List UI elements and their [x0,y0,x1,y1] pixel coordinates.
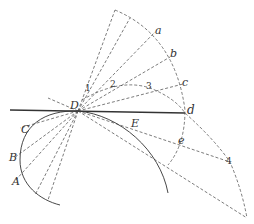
label-C: C [21,124,29,135]
dashed-arc-inner [82,85,247,218]
number-4: 4 [226,157,232,166]
number-1: 1 [85,84,91,93]
label-c: c [182,77,188,88]
geometry-diagram: D E C B A a b c d e 1 2 3 4 [0,0,254,224]
label-E: E [131,118,139,129]
label-A: A [12,176,20,187]
label-d: d [187,104,195,116]
label-a: a [155,25,162,36]
label-e: e [178,135,185,146]
horizontal-line [10,110,185,113]
label-D: D [70,100,79,111]
label-b: b [170,48,177,59]
label-B: B [9,152,17,163]
right-arc [78,111,168,193]
number-2: 2 [110,80,116,89]
diagram-canvas [0,0,254,224]
number-3: 3 [146,82,152,91]
